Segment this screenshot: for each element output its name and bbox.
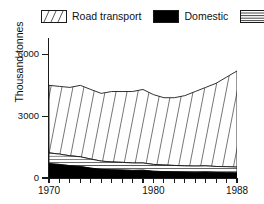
x-tick xyxy=(163,179,164,184)
x-tick xyxy=(122,179,123,184)
stacked-area-plot xyxy=(49,38,237,178)
x-tick xyxy=(132,179,133,184)
legend-entry-road-transport: Road transport xyxy=(41,9,141,24)
y-tick xyxy=(42,54,48,55)
y-tick xyxy=(42,116,48,117)
x-tick xyxy=(111,179,112,184)
x-tick xyxy=(236,179,237,184)
area-band-road-transport xyxy=(49,71,237,167)
x-tick xyxy=(59,179,60,184)
legend-label-road-transport: Road transport xyxy=(72,11,141,22)
diagonal-hatch-swatch-icon xyxy=(41,10,67,23)
x-tick xyxy=(101,179,102,184)
y-tick-label: 3000 xyxy=(5,110,39,121)
x-tick-label: 1988 xyxy=(226,185,248,196)
x-tick xyxy=(153,179,154,184)
legend-label-domestic: Domestic xyxy=(184,11,228,22)
x-tick xyxy=(195,179,196,184)
legend-entry-domestic: Domestic xyxy=(153,9,228,24)
x-tick xyxy=(205,179,206,184)
x-tick xyxy=(226,179,227,184)
y-tick-label: 0 xyxy=(5,172,39,183)
x-tick xyxy=(48,179,49,184)
x-tick xyxy=(69,179,70,184)
x-tick xyxy=(142,179,143,184)
horizontal-hatch-swatch-icon xyxy=(240,10,264,23)
y-tick-label: 6000 xyxy=(5,48,39,59)
x-tick xyxy=(174,179,175,184)
y-tick xyxy=(42,177,48,178)
x-tick xyxy=(184,179,185,184)
solid-black-swatch-icon xyxy=(153,10,179,23)
x-tick xyxy=(216,179,217,184)
legend-entry-other: Other xyxy=(240,9,264,24)
chart-figure: Road transport Domestic Other xyxy=(0,0,264,204)
chart-legend: Road transport Domestic Other xyxy=(41,9,257,24)
x-tick-label: 1980 xyxy=(142,185,164,196)
x-tick xyxy=(80,179,81,184)
x-tick-label: 1970 xyxy=(38,185,60,196)
y-axis-title: Thousand tonnes xyxy=(13,12,25,112)
x-tick xyxy=(90,179,91,184)
